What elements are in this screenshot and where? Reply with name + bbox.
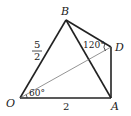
point-label-A: A [110, 100, 119, 113]
geometry-diagram: B D O A 2 5 2 120° 60° [0, 0, 131, 116]
segment-OB [20, 20, 66, 98]
segment-BA [66, 20, 111, 98]
point-label-O: O [6, 97, 15, 110]
point-label-B: B [60, 5, 69, 18]
side-label-OB-denominator: 2 [34, 51, 40, 62]
angle-label-O: 60° [29, 88, 45, 98]
point-label-D: D [114, 41, 124, 54]
angle-label-D: 120° [83, 40, 105, 50]
side-label-OA: 2 [63, 101, 69, 112]
side-label-OB-numerator: 5 [34, 39, 40, 50]
